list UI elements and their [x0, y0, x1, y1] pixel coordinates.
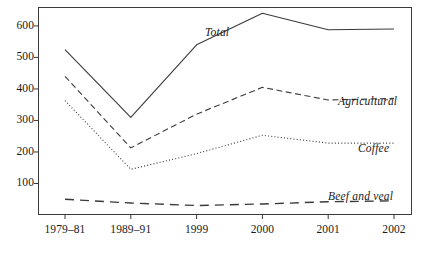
x-tick-label: 2000	[251, 224, 274, 236]
series-label-beef-and-veal: Beef and veal	[328, 191, 393, 203]
series-label-agricultural: Agricultural	[338, 96, 397, 108]
x-tick-label: 2002	[382, 224, 405, 236]
line-chart: 100200300400500600 1979–811989–911999200…	[0, 0, 432, 256]
x-tick-label: 2001	[316, 224, 339, 236]
x-tick-label: 1979–81	[45, 224, 86, 236]
x-tick-label: 1989–91	[110, 224, 151, 236]
series-label-coffee: Coffee	[358, 143, 389, 155]
series-label-total: Total	[205, 27, 229, 39]
x-tick-label: 1999	[185, 224, 208, 236]
